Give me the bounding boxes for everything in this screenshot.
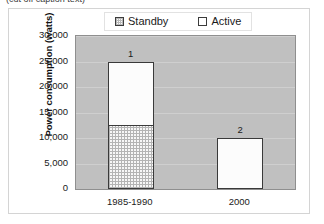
bar-column[interactable]	[217, 138, 263, 189]
legend-label-active: Active	[211, 16, 241, 27]
bar-data-label: 2	[217, 124, 263, 135]
bar-data-label: 1	[108, 48, 154, 59]
legend-entry-standby[interactable]: Standby	[115, 16, 168, 27]
y-axis-tick-label: 5,000	[12, 158, 68, 168]
plot-area: 12	[75, 35, 296, 190]
y-axis-tick-label: 10,000	[12, 132, 68, 142]
y-axis-tick-label: 15,000	[12, 107, 68, 117]
x-axis-tick-label: 1985-1990	[75, 196, 185, 207]
chart-legend: Standby Active	[104, 12, 252, 31]
bar-column[interactable]	[108, 62, 154, 190]
y-axis-tick-label: 30,000	[12, 30, 68, 40]
legend-label-standby: Standby	[128, 16, 168, 27]
bar-segment-active[interactable]	[217, 138, 263, 189]
legend-swatch-standby-icon	[115, 17, 124, 26]
bar-segment-active[interactable]	[108, 62, 154, 126]
y-axis-tick-label: 20,000	[12, 81, 68, 91]
chart-frame: Standby Active Power consumption (watts)…	[8, 8, 310, 214]
gridline	[76, 36, 295, 37]
legend-entry-active[interactable]: Active	[198, 16, 241, 27]
bar-segment-standby[interactable]	[108, 125, 154, 189]
x-axis-tick-label: 2000	[184, 196, 294, 207]
y-axis-tick-label: 25,000	[12, 56, 68, 66]
y-axis-tick-label: 0	[12, 183, 68, 193]
legend-swatch-active-icon	[198, 17, 207, 26]
y-axis-title: Power consumption (watts)	[43, 0, 54, 150]
